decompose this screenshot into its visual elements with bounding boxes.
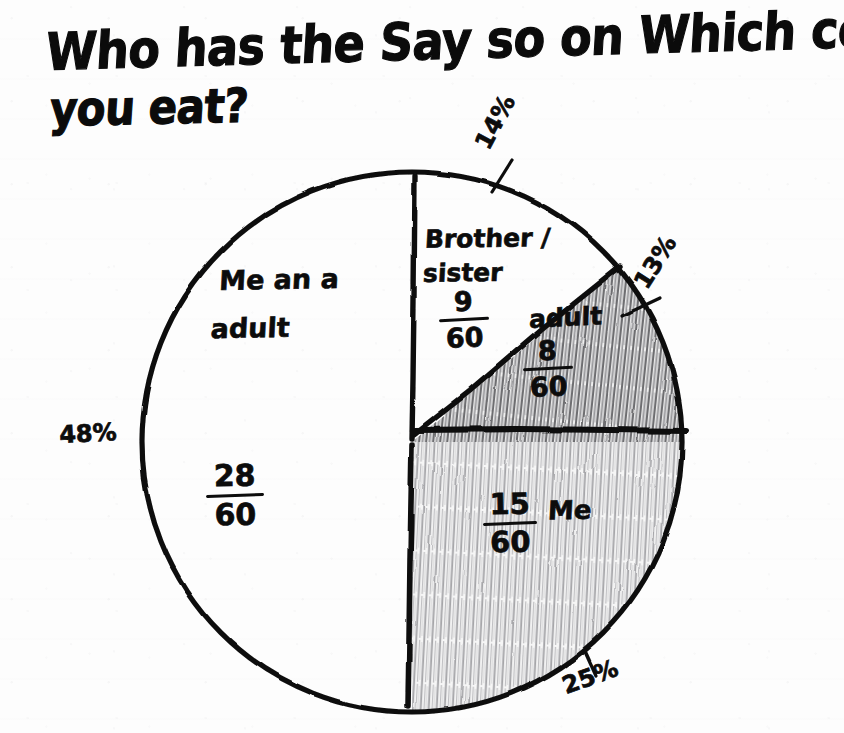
fraction-denominator: 60 bbox=[203, 499, 268, 530]
slice-label-me-and-adult: Me an a adult bbox=[216, 263, 340, 345]
pie-chart bbox=[0, 0, 844, 733]
slice-label-me-and-adult-line2: adult bbox=[210, 311, 337, 345]
fraction-denominator: 60 bbox=[437, 323, 492, 352]
slice-label-adult: adult bbox=[529, 301, 603, 334]
fraction-numerator: 15 bbox=[479, 489, 539, 519]
pie-divider-right bbox=[413, 429, 686, 431]
fraction-adult: 8 60 bbox=[520, 336, 576, 401]
slice-label-me: Me bbox=[547, 495, 592, 526]
pie-slice-me bbox=[412, 442, 682, 712]
percent-label-me-and-adult: 48% bbox=[59, 418, 118, 449]
worksheet-page: Who has the Say so on Which cereal you e… bbox=[0, 0, 844, 733]
slice-label-brother-sister: Brother / sister bbox=[422, 223, 551, 288]
slice-label-brother-sister-line2: sister bbox=[422, 257, 549, 288]
fraction-denominator: 60 bbox=[521, 372, 576, 401]
fraction-numerator: 28 bbox=[202, 460, 267, 491]
fraction-numerator: 9 bbox=[436, 287, 491, 316]
fraction-numerator: 8 bbox=[520, 336, 575, 365]
fraction-me-and-adult: 28 60 bbox=[202, 460, 267, 530]
fraction-me: 15 60 bbox=[479, 489, 540, 557]
pie-divider-bottom bbox=[408, 444, 412, 706]
fraction-denominator: 60 bbox=[480, 527, 540, 557]
fraction-brother-sister: 9 60 bbox=[436, 287, 492, 352]
pie-divider-top bbox=[412, 176, 415, 438]
slice-label-brother-sister-line1: Brother / bbox=[424, 223, 551, 254]
slice-label-me-and-adult-line1: Me an a bbox=[218, 263, 339, 297]
